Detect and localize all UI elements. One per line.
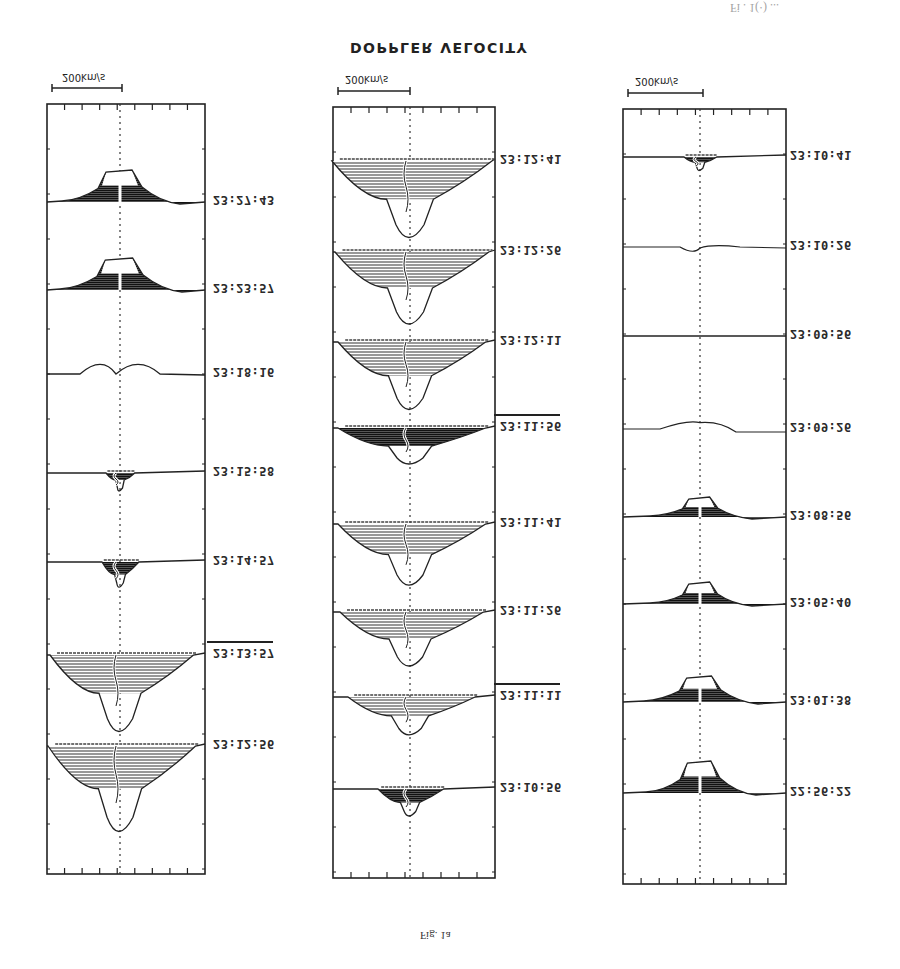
timestamp-label: 23:13:57 — [213, 646, 275, 660]
timestamp-label: 23:18:16 — [213, 365, 275, 379]
profile-225622 — [623, 761, 786, 795]
timestamp-label: 23:09:56 — [790, 327, 852, 341]
profile-231226 — [333, 250, 495, 324]
panel-right — [623, 89, 786, 884]
timestamp-label: 23:01:38 — [790, 693, 852, 707]
profile-231357 — [47, 653, 205, 732]
timestamp-label: 23:14:57 — [213, 553, 275, 567]
profile-231041 — [623, 155, 786, 171]
timestamp-label: 23:11:11 — [500, 688, 562, 702]
profile-231241 — [332, 159, 496, 238]
profile-231141 — [333, 522, 495, 585]
profile-231111 — [333, 695, 495, 735]
timestamp-label: 23:12:56 — [213, 737, 275, 751]
timestamp-label: 23:23:57 — [213, 281, 275, 295]
timestamp-label: 23:12:11 — [500, 333, 562, 347]
timestamp-label: 22:56:22 — [790, 784, 852, 798]
timestamp-overline — [207, 641, 273, 643]
profile-232743 — [47, 170, 205, 204]
profile-231026 — [623, 246, 786, 252]
profile-230138 — [623, 676, 786, 704]
profile-231211 — [333, 340, 495, 410]
profile-232357 — [47, 258, 205, 292]
timestamp-label: 23:09:26 — [790, 420, 852, 434]
profile-230540 — [623, 582, 786, 606]
panel-left — [47, 84, 205, 874]
timestamp-label: 23:10:41 — [790, 148, 852, 162]
profile-231256 — [47, 744, 205, 832]
profile-230856 — [623, 497, 786, 519]
profile-231558 — [47, 471, 205, 491]
timestamp-label: 23:11:56 — [500, 419, 562, 433]
profile-231156 — [333, 426, 495, 464]
profile-231056 — [333, 787, 495, 816]
timestamp-label: 23:12:26 — [500, 243, 562, 257]
panel-middle — [332, 87, 496, 878]
profile-231457 — [47, 560, 205, 587]
timestamp-label: 23:11:26 — [500, 603, 562, 617]
profile-230926 — [623, 422, 786, 432]
timestamp-label: 23:12:41 — [500, 152, 562, 166]
timestamp-label: 23:08:56 — [790, 508, 852, 522]
timestamp-label: 23:27:43 — [213, 193, 275, 207]
timestamp-label: 23:05:40 — [790, 595, 852, 609]
timestamp-label: 23:10:56 — [500, 780, 562, 794]
timestamp-label: 23:11:41 — [500, 515, 562, 529]
timestamp-label: 23:15:58 — [213, 464, 275, 478]
profile-231126 — [333, 610, 495, 666]
doppler-velocity-figure — [0, 0, 900, 969]
profile-231816 — [47, 364, 205, 375]
timestamp-overline — [494, 683, 560, 685]
timestamp-label: 23:10:26 — [790, 238, 852, 252]
timestamp-overline — [494, 414, 560, 416]
